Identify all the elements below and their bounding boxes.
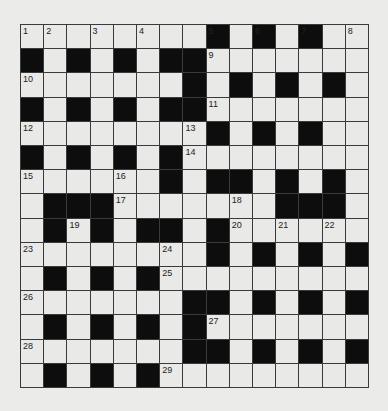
crossword-cell[interactable] (207, 146, 229, 169)
crossword-cell[interactable] (346, 73, 368, 96)
crossword-cell[interactable] (230, 122, 252, 145)
crossword-cell[interactable] (91, 122, 113, 145)
crossword-cell[interactable] (44, 98, 66, 121)
crossword-cell[interactable] (183, 194, 205, 217)
crossword-cell[interactable] (230, 98, 252, 121)
crossword-cell[interactable] (137, 243, 159, 266)
crossword-cell[interactable]: 16 (114, 170, 136, 193)
crossword-cell[interactable] (91, 170, 113, 193)
crossword-cell[interactable] (346, 364, 368, 387)
crossword-cell[interactable]: 4 (137, 25, 159, 48)
crossword-cell[interactable] (44, 340, 66, 363)
crossword-cell[interactable] (67, 315, 89, 338)
crossword-cell[interactable]: 29 (160, 364, 182, 387)
crossword-cell[interactable] (67, 340, 89, 363)
crossword-cell[interactable] (299, 170, 321, 193)
crossword-cell[interactable] (67, 73, 89, 96)
crossword-cell[interactable]: 22 (323, 219, 345, 242)
crossword-cell[interactable] (44, 49, 66, 72)
crossword-cell[interactable]: 9 (207, 49, 229, 72)
crossword-cell[interactable]: 14 (183, 146, 205, 169)
crossword-cell[interactable] (299, 146, 321, 169)
crossword-cell[interactable] (230, 364, 252, 387)
crossword-cell[interactable] (160, 340, 182, 363)
crossword-cell[interactable] (276, 291, 298, 314)
crossword-cell[interactable] (323, 340, 345, 363)
crossword-cell[interactable] (323, 243, 345, 266)
crossword-cell[interactable] (346, 98, 368, 121)
crossword-cell[interactable] (253, 194, 275, 217)
crossword-cell[interactable] (276, 49, 298, 72)
crossword-cell[interactable]: 17 (114, 194, 136, 217)
crossword-cell[interactable] (276, 243, 298, 266)
crossword-cell[interactable] (323, 364, 345, 387)
crossword-cell[interactable]: 27 (207, 315, 229, 338)
crossword-cell[interactable]: 24 (160, 243, 182, 266)
crossword-cell[interactable] (67, 243, 89, 266)
crossword-cell[interactable] (44, 170, 66, 193)
crossword-cell[interactable] (21, 364, 43, 387)
crossword-cell[interactable] (137, 340, 159, 363)
crossword-cell[interactable]: 8 (346, 25, 368, 48)
crossword-cell[interactable] (67, 291, 89, 314)
crossword-cell[interactable] (207, 267, 229, 290)
crossword-cell[interactable] (137, 170, 159, 193)
crossword-cell[interactable] (253, 98, 275, 121)
crossword-cell[interactable] (346, 170, 368, 193)
crossword-cell[interactable] (230, 291, 252, 314)
crossword-cell[interactable] (137, 98, 159, 121)
crossword-cell[interactable]: 10 (21, 73, 43, 96)
crossword-cell[interactable] (67, 170, 89, 193)
crossword-cell[interactable] (230, 315, 252, 338)
crossword-cell[interactable] (67, 25, 89, 48)
crossword-cell[interactable] (230, 146, 252, 169)
crossword-cell[interactable] (253, 315, 275, 338)
crossword-cell[interactable] (44, 146, 66, 169)
crossword-cell[interactable] (21, 267, 43, 290)
crossword-cell[interactable]: 23 (21, 243, 43, 266)
crossword-cell[interactable] (114, 25, 136, 48)
crossword-cell[interactable] (276, 146, 298, 169)
crossword-cell[interactable] (91, 73, 113, 96)
crossword-cell[interactable]: 18 (230, 194, 252, 217)
crossword-cell[interactable] (137, 194, 159, 217)
crossword-cell[interactable] (91, 49, 113, 72)
crossword-cell[interactable] (137, 49, 159, 72)
crossword-cell[interactable] (160, 25, 182, 48)
crossword-cell[interactable] (253, 146, 275, 169)
crossword-cell[interactable] (114, 73, 136, 96)
crossword-cell[interactable] (299, 267, 321, 290)
crossword-cell[interactable] (91, 98, 113, 121)
crossword-cell[interactable] (114, 364, 136, 387)
crossword-cell[interactable]: 26 (21, 291, 43, 314)
crossword-cell[interactable]: 13 (183, 122, 205, 145)
crossword-cell[interactable] (114, 315, 136, 338)
crossword-cell[interactable] (44, 122, 66, 145)
crossword-cell[interactable] (299, 219, 321, 242)
crossword-cell[interactable] (160, 122, 182, 145)
crossword-cell[interactable] (91, 146, 113, 169)
crossword-cell[interactable] (91, 291, 113, 314)
crossword-cell[interactable] (44, 243, 66, 266)
crossword-cell[interactable] (276, 364, 298, 387)
crossword-cell[interactable]: 15 (21, 170, 43, 193)
crossword-cell[interactable] (346, 267, 368, 290)
crossword-cell[interactable]: 19 (67, 219, 89, 242)
crossword-cell[interactable] (346, 315, 368, 338)
crossword-cell[interactable] (323, 315, 345, 338)
crossword-cell[interactable] (276, 98, 298, 121)
crossword-cell[interactable] (114, 267, 136, 290)
crossword-cell[interactable] (114, 219, 136, 242)
crossword-cell[interactable]: 1 (21, 25, 43, 48)
crossword-cell[interactable] (137, 73, 159, 96)
crossword-cell[interactable] (183, 25, 205, 48)
crossword-cell[interactable] (346, 122, 368, 145)
crossword-cell[interactable] (230, 243, 252, 266)
crossword-cell[interactable] (299, 315, 321, 338)
crossword-cell[interactable] (253, 267, 275, 290)
crossword-cell[interactable] (137, 291, 159, 314)
crossword-cell[interactable] (91, 243, 113, 266)
crossword-cell[interactable] (299, 73, 321, 96)
crossword-cell[interactable] (253, 364, 275, 387)
crossword-cell[interactable]: 25 (160, 267, 182, 290)
